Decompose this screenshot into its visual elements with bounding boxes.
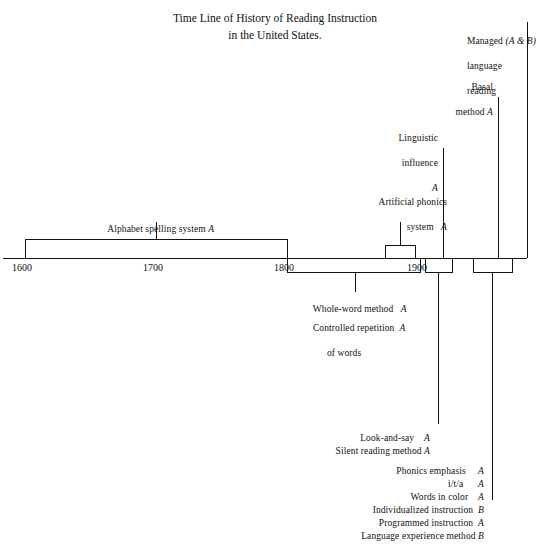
label-linguistic-influence: Linguistic influence A bbox=[350, 119, 438, 207]
axis-tick-label-1600: 1600 bbox=[12, 262, 32, 274]
label-managed-language-reading-line-3: reading bbox=[467, 86, 496, 96]
axis-tick-label-1900: 1900 bbox=[407, 262, 427, 274]
label-language-experience-method: Language experience method B bbox=[290, 517, 484, 549]
timeline-figure: Time Line of History of Reading Instruct… bbox=[0, 0, 550, 549]
mark-language-experience-method: B bbox=[478, 531, 484, 541]
label-managed-language-reading-line-1: Managed bbox=[467, 36, 503, 46]
label-artificial-phonics-line-2: system bbox=[407, 222, 434, 232]
mark-alphabet-spelling-system: A bbox=[208, 224, 214, 234]
label-linguistic-influence-line-2: influence bbox=[402, 158, 438, 168]
bracket-below-1800-1900 bbox=[287, 258, 420, 272]
label-managed-language-reading: Managed (A & B) language reading bbox=[457, 22, 550, 110]
label-controlled-repetition-text: Controlled repetition bbox=[313, 323, 395, 333]
label-language-experience-method-text: Language experience method bbox=[361, 531, 475, 541]
bracket-artificial-phonics bbox=[385, 245, 415, 258]
mark-linguistic-influence: A bbox=[432, 183, 438, 193]
bracket-below-early-1900s bbox=[425, 258, 452, 272]
bracket-below-mid-1900s bbox=[473, 258, 512, 272]
label-controlled-repetition-cont: of words bbox=[313, 348, 361, 358]
mark-managed-language-reading: (A & B) bbox=[505, 36, 536, 46]
label-alphabet-spelling-system: Alphabet spelling system A bbox=[56, 210, 256, 248]
mark-controlled-repetition: A bbox=[399, 323, 405, 333]
label-controlled-repetition: Controlled repetition A of words bbox=[303, 309, 473, 372]
mark-artificial-phonics-system: A bbox=[441, 222, 447, 232]
label-alphabet-spelling-system-text: Alphabet spelling system bbox=[107, 224, 205, 234]
axis-tick-label-1700: 1700 bbox=[143, 262, 163, 274]
axis-tick-label-1800: 1800 bbox=[274, 262, 294, 274]
label-managed-language-reading-line-2: language bbox=[467, 61, 502, 71]
label-linguistic-influence-line-1: Linguistic bbox=[398, 133, 438, 143]
